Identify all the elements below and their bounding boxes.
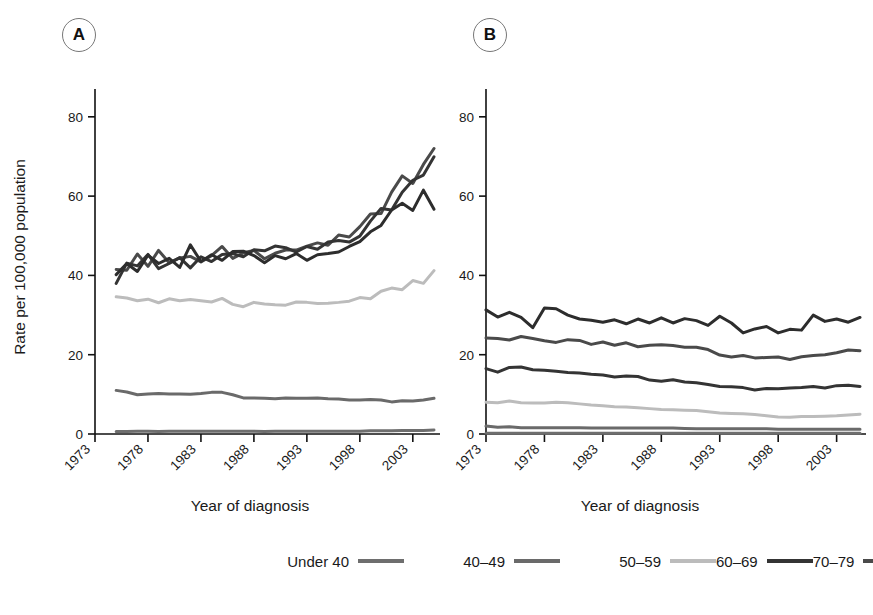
panel-b-plot: 0204060801973197819831988199319982003 [440,0,873,540]
svg-text:80: 80 [68,110,83,125]
legend-color-swatch [863,559,873,564]
svg-text:0: 0 [75,427,83,442]
svg-text:0: 0 [466,427,474,442]
legend-item-label: 60–69 [716,553,758,570]
legend: Under 4040–4950–5960–6970–7980+ [0,540,873,615]
x-axis-title-a: Year of diagnosis [80,497,420,515]
legend-item: 70–79 [813,546,873,576]
svg-text:20: 20 [68,348,83,363]
svg-text:40: 40 [68,268,83,283]
legend-color-swatch [767,559,813,564]
svg-text:60: 60 [68,189,83,204]
svg-text:1998: 1998 [326,442,358,474]
svg-text:1978: 1978 [114,442,146,474]
legend-color-swatch [514,559,560,564]
legend-item-label: 50–59 [619,553,661,570]
svg-text:1993: 1993 [686,442,718,474]
svg-text:2003: 2003 [803,442,835,474]
panel-a: A Rate per 100,000 population 0204060801… [0,0,440,540]
svg-text:1998: 1998 [744,442,776,474]
svg-text:1978: 1978 [511,442,543,474]
legend-item-label: 40–49 [463,553,505,570]
svg-text:1983: 1983 [569,442,601,474]
svg-text:2003: 2003 [379,442,411,474]
svg-text:1983: 1983 [167,442,199,474]
panel-a-plot: 0204060801973197819831988199319982003 [0,0,440,540]
figure-root: A Rate per 100,000 population 0204060801… [0,0,873,615]
legend-color-swatch [358,559,404,564]
svg-text:1988: 1988 [220,442,252,474]
legend-item: 50–59 [560,546,716,576]
legend-color-swatch [670,559,716,564]
svg-text:20: 20 [459,348,474,363]
legend-item-label: 70–79 [813,553,855,570]
svg-text:1973: 1973 [61,442,93,474]
legend-grid: Under 4040–4950–5960–6970–7980+ [248,546,873,576]
panel-b: B 0204060801973197819831988199319982003 [440,0,873,540]
svg-text:1988: 1988 [628,442,660,474]
svg-text:1973: 1973 [452,442,484,474]
svg-text:40: 40 [459,268,474,283]
legend-item: 60–69 [716,546,813,576]
svg-text:60: 60 [459,189,474,204]
legend-item: Under 40 [248,546,404,576]
legend-item-label: Under 40 [287,553,349,570]
svg-text:80: 80 [459,110,474,125]
svg-text:1993: 1993 [273,442,305,474]
x-axis-title-b: Year of diagnosis [470,497,810,515]
legend-item: 40–49 [404,546,560,576]
